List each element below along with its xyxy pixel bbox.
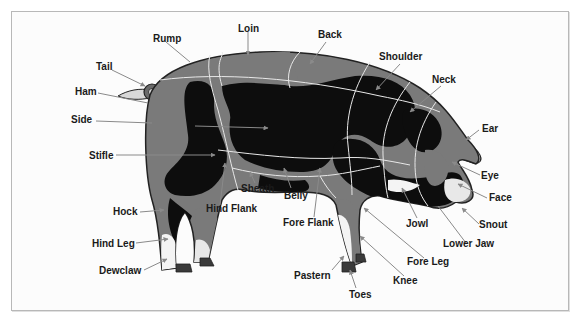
label-loin: Loin <box>238 23 259 34</box>
label-tail: Tail <box>96 61 113 72</box>
label-back: Back <box>318 29 342 40</box>
label-fore-flank: Fore Flank <box>283 217 334 228</box>
label-ear: Ear <box>482 123 498 134</box>
label-lower-jaw: Lower Jaw <box>443 238 494 249</box>
label-shoulder: Shoulder <box>379 51 422 62</box>
label-hind-flank: Hind Flank <box>206 203 258 214</box>
label-hock: Hock <box>113 206 138 217</box>
pig-body <box>146 52 479 270</box>
label-toes: Toes <box>349 289 372 300</box>
label-sheath: Sheath <box>241 183 274 194</box>
label-jowl: Jowl <box>406 218 428 229</box>
label-hind-leg: Hind Leg <box>92 238 135 249</box>
label-knee: Knee <box>393 275 418 286</box>
label-side: Side <box>71 114 93 125</box>
label-fore-leg: Fore Leg <box>407 256 449 267</box>
label-snout: Snout <box>479 219 508 230</box>
label-face: Face <box>489 192 512 203</box>
label-dewclaw: Dewclaw <box>99 265 141 276</box>
pig-anatomy-diagram: Rump Loin Back Shoulder Neck Tail Ham Si… <box>0 0 580 322</box>
label-stifle: Stifle <box>89 150 114 161</box>
label-belly: Belly <box>284 190 308 201</box>
label-eye: Eye <box>481 170 499 181</box>
label-neck: Neck <box>432 74 456 85</box>
label-ham: Ham <box>75 86 97 97</box>
label-rump: Rump <box>153 33 181 44</box>
label-pastern: Pastern <box>294 270 331 281</box>
